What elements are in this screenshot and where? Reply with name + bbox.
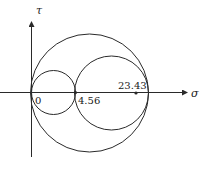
- sigma-axis-label: σ: [191, 87, 199, 100]
- point-label-23-43: 23.43: [118, 80, 147, 91]
- point-4-56: [74, 91, 77, 94]
- tau-axis-label: τ: [36, 4, 43, 17]
- origin-label: 0: [35, 95, 41, 106]
- point-label-4-56: 4.56: [78, 95, 100, 106]
- mohr-circle-diagram: τ σ 0 4.56 23.43: [0, 0, 209, 170]
- point-23-43: [134, 91, 137, 94]
